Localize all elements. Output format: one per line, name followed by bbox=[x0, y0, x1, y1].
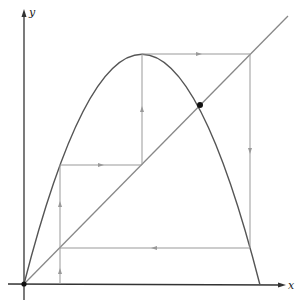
arrow-right-icon bbox=[98, 163, 104, 167]
arrow-up-icon bbox=[58, 201, 62, 207]
arrow-up-icon bbox=[58, 268, 62, 274]
y-axis-arrow-icon bbox=[22, 9, 27, 17]
arrow-down-icon bbox=[248, 148, 252, 154]
x-axis bbox=[8, 284, 280, 285]
fixed-point-marker bbox=[197, 102, 203, 108]
arrow-left-icon bbox=[151, 246, 157, 250]
arrow-up-icon bbox=[140, 106, 144, 112]
origin-marker bbox=[21, 281, 26, 286]
cobweb-diagram: y x bbox=[0, 0, 296, 306]
x-axis-label: x bbox=[288, 279, 295, 292]
cobweb-path bbox=[60, 54, 250, 284]
arrow-right-icon bbox=[196, 52, 202, 56]
x-axis-arrow-icon bbox=[278, 283, 286, 288]
y-axis-label: y bbox=[28, 6, 36, 19]
